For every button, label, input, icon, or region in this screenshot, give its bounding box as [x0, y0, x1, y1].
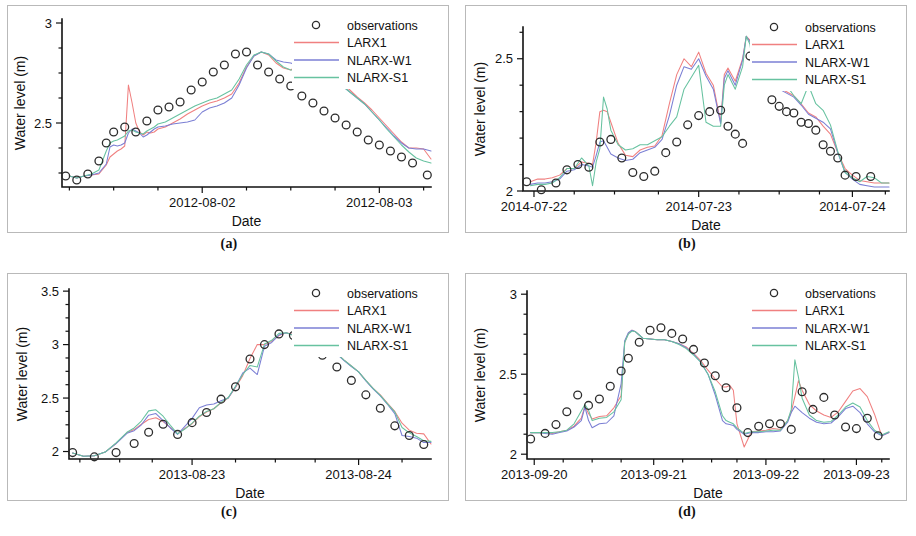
legend-label-larx1: LARX1: [805, 38, 845, 52]
legend-label-larx1: LARX1: [347, 304, 387, 318]
observation-marker: [695, 112, 703, 120]
panel-d: 22.532013-09-202013-09-212013-09-222013-…: [458, 268, 916, 536]
panel-d-plot: 22.532013-09-202013-09-212013-09-222013-…: [465, 273, 907, 501]
observation-marker: [635, 338, 643, 346]
panel-b: 22.52014-07-222014-07-232014-07-24DateWa…: [458, 0, 916, 268]
observation-marker: [209, 68, 217, 76]
panel-b-caption: (b): [458, 236, 916, 252]
observation-marker: [739, 139, 747, 147]
observation-marker: [617, 367, 625, 375]
legend-label-observations: observations: [805, 287, 876, 301]
observation-marker: [731, 130, 739, 138]
observation-marker: [73, 176, 81, 184]
observation-marker: [198, 78, 206, 86]
panel-a-plot: 2.532012-08-022012-08-03DateWater level …: [7, 5, 449, 233]
observation-marker: [333, 363, 341, 371]
y-tick-label: 2: [510, 447, 517, 462]
observation-marker: [673, 138, 681, 146]
observation-marker: [797, 118, 805, 126]
y-tick-label: 2: [506, 184, 513, 199]
legend-label-nlarx-s1: NLARX-S1: [805, 339, 866, 353]
observation-marker: [537, 186, 545, 194]
x-axis-title: Date: [235, 485, 265, 501]
observation-marker: [733, 404, 741, 412]
y-tick-label: 2.5: [499, 367, 517, 382]
observation-marker: [755, 422, 763, 430]
y-tick-label: 3.5: [41, 284, 59, 299]
observation-marker: [651, 167, 659, 175]
x-tick-label: 2013-09-21: [620, 467, 687, 482]
observation-marker: [387, 147, 395, 155]
observation-marker: [398, 153, 406, 161]
observation-marker: [657, 324, 665, 332]
observation-marker: [812, 126, 820, 134]
y-tick-label: 3: [45, 16, 52, 31]
x-axis-title: Date: [691, 217, 721, 233]
observation-marker: [777, 420, 785, 428]
legend-label-nlarx-w1: NLARX-W1: [347, 322, 412, 336]
legend-label-nlarx-s1: NLARX-S1: [347, 71, 408, 85]
observation-marker: [265, 68, 273, 76]
y-tick-label: 2.5: [34, 116, 52, 131]
observation-marker: [646, 326, 654, 334]
y-axis-title: Water level (m): [472, 328, 488, 422]
observation-marker: [154, 106, 162, 114]
observation-marker: [523, 178, 531, 186]
x-tick-label: 2012-08-03: [346, 195, 413, 210]
observation-marker: [320, 107, 328, 115]
y-axis-title: Water level (m): [12, 56, 28, 150]
legend-label-nlarx-w1: NLARX-W1: [805, 56, 870, 70]
observation-marker: [724, 122, 732, 130]
observation-marker: [309, 99, 317, 107]
observation-marker: [95, 157, 103, 165]
observation-marker: [766, 420, 774, 428]
observation-marker: [423, 171, 431, 179]
observation-marker: [121, 123, 129, 131]
legend-label-nlarx-s1: NLARX-S1: [805, 73, 866, 87]
legend-label-larx1: LARX1: [805, 304, 845, 318]
x-tick-label: 2013-09-23: [823, 467, 890, 482]
y-axis-title: Water level (m): [472, 62, 488, 156]
panel-a-caption: (a): [0, 236, 458, 252]
legend-label-nlarx-w1: NLARX-W1: [347, 54, 412, 68]
observation-marker: [775, 102, 783, 110]
legend-label-observations: observations: [805, 21, 876, 35]
x-tick-label: 2014-07-22: [501, 199, 568, 214]
observation-marker: [254, 61, 262, 69]
observation-marker: [819, 141, 827, 149]
observation-marker: [679, 335, 687, 343]
x-axis-title: Date: [232, 213, 262, 229]
observation-marker: [176, 98, 184, 106]
observation-marker: [684, 121, 692, 129]
observation-marker: [130, 440, 138, 448]
observation-marker: [596, 395, 604, 403]
observation-marker: [409, 159, 417, 167]
panel-b-plot: 22.52014-07-222014-07-232014-07-24DateWa…: [465, 5, 907, 233]
legend-label-observations: observations: [347, 287, 418, 301]
observation-marker: [376, 404, 384, 412]
observation-marker: [62, 172, 70, 180]
y-tick-label: 2.5: [495, 51, 513, 66]
observation-marker: [342, 121, 350, 129]
observation-marker: [768, 96, 776, 104]
observation-marker: [353, 128, 361, 136]
legend-label-nlarx-s1: NLARX-S1: [347, 339, 408, 353]
observation-marker: [668, 330, 676, 338]
y-tick-label: 3: [510, 287, 517, 302]
observation-marker: [102, 139, 110, 147]
x-axis-title: Date: [693, 485, 723, 501]
panel-c-plot: 22.533.52013-08-232013-08-24DateWater le…: [7, 273, 449, 501]
observation-marker: [563, 408, 571, 416]
legend-label-larx1: LARX1: [347, 36, 387, 50]
observation-marker: [640, 173, 648, 181]
observation-marker: [391, 422, 399, 430]
observation-marker: [790, 109, 798, 117]
panel-c: 22.533.52013-08-232013-08-24DateWater le…: [0, 268, 458, 536]
observation-marker: [842, 423, 850, 431]
observation-marker: [607, 136, 615, 144]
observation-marker: [220, 61, 228, 69]
x-tick-label: 2013-09-20: [501, 467, 568, 482]
observation-marker: [375, 141, 383, 149]
x-tick-label: 2014-07-23: [665, 199, 732, 214]
observation-marker: [143, 117, 151, 125]
